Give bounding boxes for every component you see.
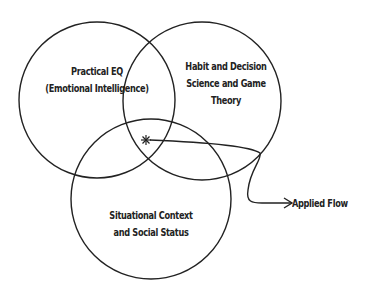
label-line: Practical EQ xyxy=(27,63,166,80)
venn-diagram xyxy=(0,0,373,294)
label-line: Habit and Decision xyxy=(173,58,280,75)
label-habit-decision: Habit and Decision Science and Game Theo… xyxy=(173,58,280,109)
label-practical-eq: Practical EQ (Emotional Intelligence) xyxy=(27,63,166,97)
label-situational-context: Situational Context and Social Status xyxy=(98,207,205,241)
label-line: and Social Status xyxy=(98,224,205,241)
label-line: Science and Game xyxy=(173,75,280,92)
circle-practical-eq xyxy=(19,22,175,178)
intersection-star-icon xyxy=(141,135,151,145)
callout-text: Applied Flow xyxy=(292,195,349,212)
label-applied-flow: Applied Flow xyxy=(292,195,349,212)
label-line: Situational Context xyxy=(98,207,205,224)
label-line: Theory xyxy=(173,92,280,109)
label-line: (Emotional Intelligence) xyxy=(27,80,166,97)
applied-flow-connector xyxy=(150,140,292,203)
